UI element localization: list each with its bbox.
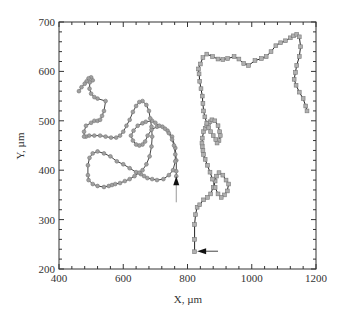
data-point-circle xyxy=(141,168,145,172)
data-point-square xyxy=(205,121,209,125)
x-tick-label: 800 xyxy=(179,272,196,284)
data-point-circle xyxy=(123,179,127,183)
data-point-circle xyxy=(162,177,166,181)
data-point-circle xyxy=(163,127,167,131)
data-point-square xyxy=(200,94,204,98)
data-point-square xyxy=(294,70,298,74)
data-point-circle xyxy=(109,154,113,158)
data-point-circle xyxy=(129,134,133,138)
data-point-square xyxy=(211,177,215,181)
series-trajectory-circles xyxy=(77,75,178,188)
y-tick-label: 600 xyxy=(39,65,56,77)
data-point-square xyxy=(301,97,305,101)
data-point-square xyxy=(202,109,206,113)
data-point-circle xyxy=(98,118,102,122)
data-point-square xyxy=(202,198,206,202)
data-point-circle xyxy=(137,171,141,175)
y-tick-label: 200 xyxy=(39,263,56,275)
data-point-square xyxy=(200,141,204,145)
data-point-square xyxy=(197,72,201,76)
data-point-circle xyxy=(82,130,86,134)
data-point-circle xyxy=(134,143,138,147)
data-point-circle xyxy=(86,173,90,177)
x-axis-label: X, µm xyxy=(174,293,203,305)
data-point-circle xyxy=(104,135,108,139)
data-point-circle xyxy=(167,173,171,177)
data-point-square xyxy=(253,59,257,63)
y-tick-label: 700 xyxy=(39,16,56,28)
data-point-square xyxy=(274,44,278,48)
data-point-square xyxy=(206,163,210,167)
data-point-circle xyxy=(150,177,154,181)
data-point-circle xyxy=(87,178,91,182)
data-point-circle xyxy=(121,130,125,134)
data-point-square xyxy=(218,134,222,138)
data-point-circle xyxy=(167,131,171,135)
data-point-circle xyxy=(144,162,148,166)
data-point-circle xyxy=(150,135,154,139)
data-point-square xyxy=(201,149,205,153)
y-axis-label: Y, µm xyxy=(14,132,26,159)
data-point-square xyxy=(211,55,215,59)
data-point-square xyxy=(232,55,236,59)
data-point-circle xyxy=(100,114,104,118)
data-point-circle xyxy=(82,135,86,139)
data-point-square xyxy=(193,250,197,254)
data-point-circle xyxy=(171,168,175,172)
data-point-square xyxy=(208,170,212,174)
data-point-square xyxy=(305,109,309,113)
data-point-square xyxy=(304,104,308,108)
y-tick-label: 300 xyxy=(39,214,56,226)
data-point-circle xyxy=(121,162,125,166)
data-point-circle xyxy=(131,110,135,114)
data-point-circle xyxy=(132,129,136,133)
data-point-square xyxy=(264,55,268,59)
data-point-square xyxy=(203,157,207,161)
series-layer xyxy=(77,32,309,253)
data-point-circle xyxy=(147,109,151,113)
data-point-square xyxy=(198,62,202,66)
data-point-square xyxy=(297,35,301,39)
data-point-circle xyxy=(170,138,174,142)
arrow-left-icon xyxy=(197,248,218,254)
data-point-circle xyxy=(89,92,93,96)
data-point-circle xyxy=(109,136,113,140)
data-point-square xyxy=(279,41,283,45)
data-point-square xyxy=(224,178,228,182)
data-point-square xyxy=(214,138,218,142)
data-point-square xyxy=(221,58,225,62)
data-point-circle xyxy=(83,82,87,86)
data-point-circle xyxy=(91,182,95,186)
data-point-square xyxy=(197,67,201,71)
data-point-square xyxy=(216,124,220,128)
data-point-square xyxy=(209,192,213,196)
data-point-square xyxy=(211,134,215,138)
data-point-circle xyxy=(131,139,135,143)
data-point-circle xyxy=(128,177,132,181)
data-point-circle xyxy=(146,134,150,138)
arrow-up-icon xyxy=(173,176,179,202)
data-point-square xyxy=(221,173,225,177)
data-point-circle xyxy=(144,120,148,124)
data-point-circle xyxy=(86,163,90,167)
data-point-circle xyxy=(88,156,92,160)
data-point-circle xyxy=(148,116,152,120)
data-point-square xyxy=(216,57,220,61)
data-point-circle xyxy=(172,144,176,148)
data-point-circle xyxy=(102,109,106,113)
data-point-square xyxy=(198,203,202,207)
plot-axes: 40060080010001200200300400500600700 xyxy=(39,16,328,284)
data-point-square xyxy=(294,83,298,87)
data-point-circle xyxy=(148,154,152,158)
data-point-circle xyxy=(92,134,96,138)
data-point-circle xyxy=(128,118,132,122)
data-point-circle xyxy=(118,134,122,138)
data-point-circle xyxy=(102,185,106,189)
data-point-circle xyxy=(133,174,137,178)
data-point-circle xyxy=(113,182,117,186)
x-tick-label: 1200 xyxy=(305,272,328,284)
plot-frame xyxy=(59,22,316,269)
data-point-circle xyxy=(104,99,108,103)
data-point-square xyxy=(227,182,231,186)
data-point-square xyxy=(205,52,209,56)
